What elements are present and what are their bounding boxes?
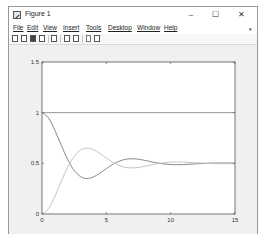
x-tick-label: 15 (232, 217, 239, 223)
x-tick-label: 10 (167, 217, 174, 223)
menu-file[interactable]: File (13, 24, 23, 31)
print-icon[interactable] (39, 35, 45, 42)
plot-area (42, 62, 235, 214)
y-tick-label: 1 (36, 110, 40, 116)
figure-window: Figure 1 – ☐ ✕ File Edit View Insert Too… (8, 6, 258, 234)
edit-plot-arrow-icon[interactable] (86, 35, 91, 42)
axes[interactable]: 05101500.511.5 (9, 45, 257, 234)
open-file-icon[interactable] (21, 35, 27, 42)
menu-edit[interactable]: Edit (27, 24, 38, 31)
figure-canvas: 05101500.511.5 (9, 45, 257, 234)
toolbar-separator (82, 35, 83, 43)
close-button[interactable]: ✕ (231, 8, 251, 22)
y-tick-label: 0.5 (31, 160, 40, 166)
menu-bar: File Edit View Insert Tools Desktop Wind… (9, 23, 257, 34)
maximize-button[interactable]: ☐ (205, 8, 225, 22)
menu-tools[interactable]: Tools (86, 24, 101, 31)
save-icon[interactable] (30, 35, 36, 42)
matlab-figure-icon (13, 11, 21, 19)
y-tick-label: 0 (36, 211, 40, 217)
window-title: Figure 1 (25, 10, 51, 17)
insert-colorbar-icon[interactable] (64, 35, 70, 42)
minimize-button[interactable]: – (181, 8, 201, 22)
menu-insert[interactable]: Insert (63, 24, 79, 31)
menu-desktop[interactable]: Desktop (108, 24, 132, 31)
y-tick-label: 1.5 (31, 59, 40, 65)
toolbar-separator (60, 35, 61, 43)
new-figure-icon[interactable] (12, 35, 18, 42)
property-inspector-icon[interactable] (94, 35, 100, 42)
x-tick-label: 0 (40, 217, 44, 223)
insert-legend-icon[interactable] (73, 35, 79, 42)
menu-help[interactable]: Help (164, 24, 177, 31)
menu-overflow-icon[interactable]: ▾ (249, 26, 252, 32)
toolbar-separator (48, 35, 49, 43)
title-bar[interactable]: Figure 1 – ☐ ✕ (9, 7, 257, 23)
menu-view[interactable]: View (43, 24, 57, 31)
toolbar (9, 34, 257, 45)
menu-window[interactable]: Window (137, 24, 160, 31)
x-tick-label: 5 (105, 217, 109, 223)
link-plot-icon[interactable] (51, 35, 57, 42)
